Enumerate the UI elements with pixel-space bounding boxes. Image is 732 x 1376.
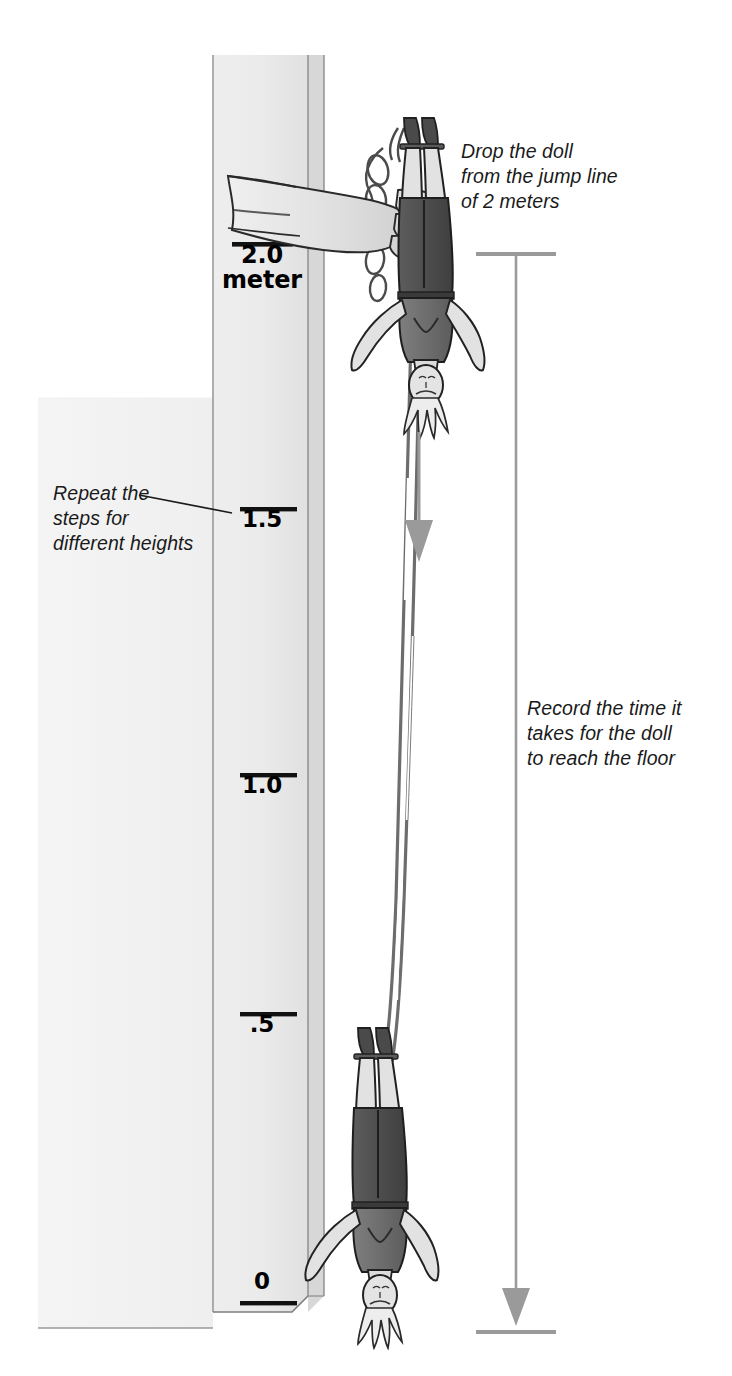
ruler-label-2-0-meter: 2.0 meter — [214, 243, 310, 293]
ruler-label-1-5: 1.5 — [214, 508, 310, 532]
measure-top-cap — [476, 252, 556, 256]
annotation-repeat-the-steps: Repeat the steps for different heights — [53, 481, 193, 556]
annotation-record-the-time: Record the time it takes for the doll to… — [527, 696, 682, 771]
ruler-label-0: 0 — [214, 1270, 310, 1294]
ruler-label-0-5: .5 — [214, 1013, 310, 1037]
ruler-label-1-0: 1.0 — [214, 774, 310, 798]
doll-top-shoes — [400, 118, 444, 149]
measure-bottom-cap — [476, 1330, 556, 1334]
doll-bottom-shoes — [354, 1028, 398, 1059]
annotation-drop-the-doll: Drop the doll from the jump line of 2 me… — [461, 139, 618, 214]
measure-arrowhead — [502, 1288, 530, 1326]
doll-bottom — [305, 1028, 438, 1348]
fall-distance-measure — [476, 252, 556, 1334]
diagram-canvas: Drop the doll from the jump line of 2 me… — [0, 0, 732, 1376]
scene-figures-layer — [0, 0, 732, 1376]
